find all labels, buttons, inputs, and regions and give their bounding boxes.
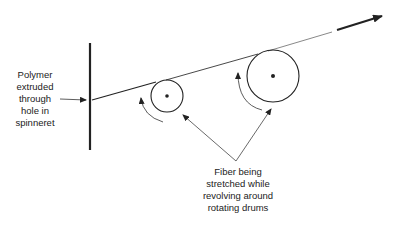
small-drum-axle bbox=[165, 94, 169, 98]
drums-caption-line: stretched while bbox=[188, 178, 288, 190]
spinneret-label-line: through bbox=[2, 93, 68, 105]
spinneret-label-line: Polymer bbox=[2, 69, 68, 81]
drums-caption-line: rotating drums bbox=[188, 202, 288, 214]
drums-caption-line: Fiber being bbox=[188, 166, 288, 178]
drums-caption-line: revolving around bbox=[188, 190, 288, 202]
spinneret-label-line: spinneret bbox=[2, 117, 68, 129]
caption-pointer-large-drum bbox=[236, 109, 271, 161]
spinneret-label: Polymer extruded through hole in spinner… bbox=[2, 69, 68, 129]
large-drum-axle bbox=[271, 74, 275, 78]
large-drum-rotation-arrow bbox=[238, 73, 262, 110]
caption-pointer-small-drum bbox=[183, 115, 236, 161]
fiber-segment-2 bbox=[166, 54, 258, 80]
fiber-segment-1 bbox=[92, 82, 156, 100]
fiber-segment-3 bbox=[268, 32, 332, 51]
spinneret-label-line: hole in bbox=[2, 105, 68, 117]
output-direction-arrow bbox=[337, 16, 382, 30]
spinneret-label-line: extruded bbox=[2, 81, 68, 93]
diagram-canvas: Polymer extruded through hole in spinner… bbox=[0, 0, 393, 225]
drums-caption: Fiber being stretched while revolving ar… bbox=[188, 166, 288, 214]
